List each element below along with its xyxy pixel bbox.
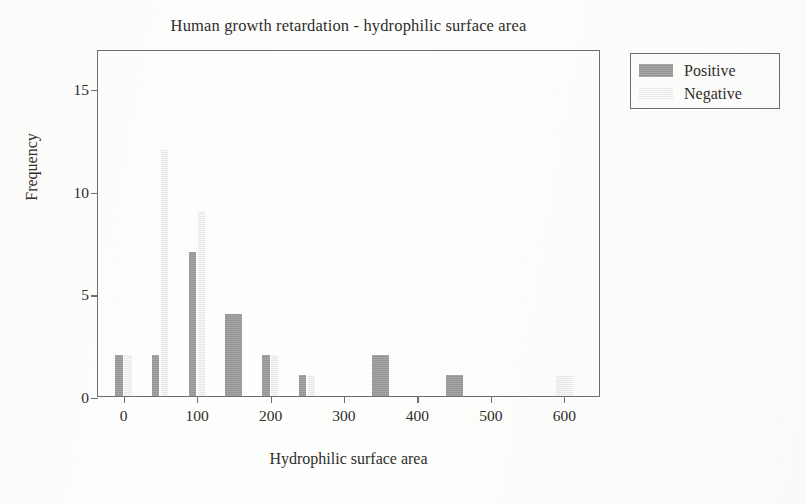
bar-negative-200 (271, 355, 279, 396)
legend-item-negative[interactable]: Negative (639, 82, 773, 105)
negative-swatch-icon (639, 87, 673, 100)
y-tick-10 (91, 193, 98, 194)
x-tick-300 (344, 396, 345, 403)
bar-positive-250 (299, 375, 307, 396)
y-tick-15 (91, 90, 98, 91)
x-tick-500 (491, 396, 492, 403)
plot-frame: 0510150100200300400500600 (97, 50, 600, 397)
bar-positive-50 (152, 355, 160, 396)
bar-positive-100 (189, 252, 197, 396)
y-tick-label-0: 0 (81, 389, 89, 407)
x-tick-400 (417, 396, 418, 403)
x-tick-label-600: 600 (553, 407, 576, 425)
x-tick-600 (564, 396, 565, 403)
x-tick-label-0: 0 (120, 407, 128, 425)
x-tick-label-500: 500 (479, 407, 502, 425)
bar-negative-250 (308, 375, 316, 396)
y-tick-label-5: 5 (81, 286, 89, 304)
x-tick-label-400: 400 (406, 407, 429, 425)
legend-label-positive: Positive (684, 63, 736, 79)
x-tick-0 (124, 396, 125, 403)
y-axis-title: Frequency (23, 72, 41, 262)
bar-positive-350 (372, 355, 389, 396)
legend-item-positive[interactable]: Positive (639, 59, 773, 82)
plot-area (98, 51, 599, 396)
bar-negative-0 (124, 355, 132, 396)
x-tick-label-200: 200 (259, 407, 282, 425)
y-tick-0 (91, 398, 98, 399)
x-tick-100 (197, 396, 198, 403)
x-axis-title: Hydrophilic surface area (97, 450, 600, 468)
y-tick-label-15: 15 (74, 81, 90, 99)
bar-positive-450 (446, 375, 463, 396)
y-tick-label-10: 10 (74, 183, 90, 201)
chart-figure: Human growth retardation - hydrophilic s… (0, 0, 805, 504)
y-tick-5 (91, 295, 98, 296)
x-tick-200 (271, 396, 272, 403)
bar-positive-200 (262, 355, 270, 396)
legend-label-negative: Negative (684, 86, 742, 102)
x-tick-label-300: 300 (332, 407, 355, 425)
bar-negative-600 (556, 375, 573, 396)
positive-swatch-icon (639, 64, 673, 77)
bar-negative-50 (161, 150, 169, 396)
bar-negative-100 (198, 211, 206, 396)
chart-title: Human growth retardation - hydrophilic s… (97, 16, 600, 36)
chart-legend: Positive Negative (630, 53, 780, 109)
x-tick-label-100: 100 (186, 407, 209, 425)
bar-positive-0 (115, 355, 123, 396)
bar-positive-150 (225, 314, 242, 396)
